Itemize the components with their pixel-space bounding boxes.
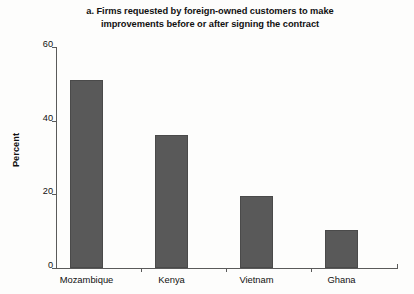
- y-tick-label-40: 40: [43, 114, 53, 123]
- x-axis-end-cap: [397, 264, 398, 269]
- chart-title: a. Firms requested by foreign-owned cust…: [60, 5, 360, 30]
- y-tick-label-60: 60: [43, 40, 53, 49]
- bar-vietnam: [240, 196, 273, 268]
- y-axis-line: [56, 47, 57, 268]
- y-tick-label-20: 20: [43, 187, 53, 196]
- bar-kenya: [155, 135, 188, 268]
- x-label-vietnam: Vietnam: [239, 274, 273, 285]
- x-label-kenya: Kenya: [158, 274, 185, 285]
- plot-area: 0 20 40 60 Mozambique Kenya Vietnam Ghan…: [56, 47, 398, 268]
- x-axis-line: [56, 268, 398, 269]
- bar-mozambique: [70, 80, 103, 268]
- bar-chart-figure: a. Firms requested by foreign-owned cust…: [0, 0, 414, 294]
- x-label-ghana: Ghana: [327, 274, 355, 285]
- bar-ghana: [325, 230, 358, 268]
- y-axis-title: Percent: [11, 133, 21, 167]
- y-tick-label-0: 0: [48, 261, 53, 270]
- chart-title-line-1: a. Firms requested by foreign-owned cust…: [60, 5, 360, 18]
- chart-title-line-2: improvements before or after signing the…: [60, 18, 360, 31]
- x-tick-1: [141, 268, 142, 272]
- x-tick-3: [311, 268, 312, 272]
- x-label-mozambique: Mozambique: [60, 274, 114, 285]
- x-tick-2: [226, 268, 227, 272]
